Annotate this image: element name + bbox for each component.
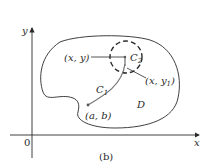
y-axis-label: y — [21, 25, 28, 36]
figure-caption: (b) — [99, 151, 113, 162]
c1-label: C1 — [96, 84, 108, 97]
diagram-canvas: y x 0 (x, y) C2 (x, y1) C1 (a, b) D (b) — [0, 0, 219, 168]
x-axis-label: x — [194, 137, 200, 148]
point-x-y1-label: (x, y1) — [145, 75, 175, 88]
point-x-y — [124, 56, 126, 58]
leader-x-y1 — [127, 68, 146, 78]
start-point-label: (a, b) — [85, 110, 112, 121]
origin-label: 0 — [24, 137, 30, 148]
point-a-b — [87, 104, 90, 107]
region-d-label: D — [136, 99, 145, 110]
c2-label: C2 — [130, 52, 143, 65]
point-x-y-label: (x, y) — [64, 52, 90, 63]
curve-c1 — [88, 64, 125, 105]
